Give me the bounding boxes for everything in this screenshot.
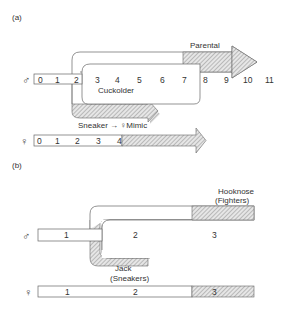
sneaker-label: Sneaker → ♀Mimic [78, 121, 147, 130]
svg-text:8: 8 [203, 75, 208, 85]
life-history-diagram: (a) Parental ♂ 0 1 2 3 4 5 6 7 8 9 10 11… [0, 0, 286, 314]
female-hatched-arrow-a [122, 128, 206, 153]
hooknose-hatched-segment [192, 206, 254, 220]
hooknose-label-1: Hooknose [218, 187, 255, 196]
svg-text:4: 4 [117, 136, 122, 146]
panel-b-label: (b) [12, 161, 22, 170]
male-symbol-a: ♂ [22, 74, 30, 86]
svg-text:3: 3 [95, 75, 100, 85]
female-age-axis-a: ♀ 0 1 2 3 4 [20, 128, 208, 153]
svg-text:3: 3 [212, 287, 217, 297]
jack-label-1: Jack [115, 264, 132, 273]
cuckolder-label: Cuckolder [98, 86, 134, 95]
male-symbol-b: ♂ [22, 230, 30, 242]
female-stage-axis-b: ♀ 1 2 3 [24, 286, 254, 298]
svg-text:2: 2 [133, 287, 138, 297]
svg-text:10: 10 [243, 75, 253, 85]
svg-text:1: 1 [64, 230, 69, 240]
female-symbol-b: ♀ [24, 286, 32, 298]
svg-text:5: 5 [137, 75, 142, 85]
svg-text:1: 1 [65, 287, 70, 297]
svg-text:7: 7 [182, 75, 187, 85]
svg-text:3: 3 [96, 136, 101, 146]
svg-text:9: 9 [224, 75, 229, 85]
female-symbol-a: ♀ [20, 135, 28, 147]
svg-text:4: 4 [115, 75, 120, 85]
hooknose-label-2: (Fighters) [215, 196, 250, 205]
panel-a-label: (a) [12, 13, 22, 22]
svg-text:1: 1 [55, 75, 60, 85]
svg-text:11: 11 [265, 75, 274, 85]
svg-text:2: 2 [133, 230, 138, 240]
svg-text:3: 3 [212, 230, 217, 240]
svg-text:1: 1 [55, 136, 60, 146]
svg-text:6: 6 [160, 75, 165, 85]
svg-text:0: 0 [38, 75, 43, 85]
parental-label: Parental [190, 41, 220, 50]
svg-text:2: 2 [75, 136, 80, 146]
svg-text:2: 2 [74, 75, 79, 85]
jack-label-2: (Sneakers) [110, 274, 149, 283]
svg-text:0: 0 [37, 136, 42, 146]
female-hatched-segment-b [192, 286, 254, 297]
